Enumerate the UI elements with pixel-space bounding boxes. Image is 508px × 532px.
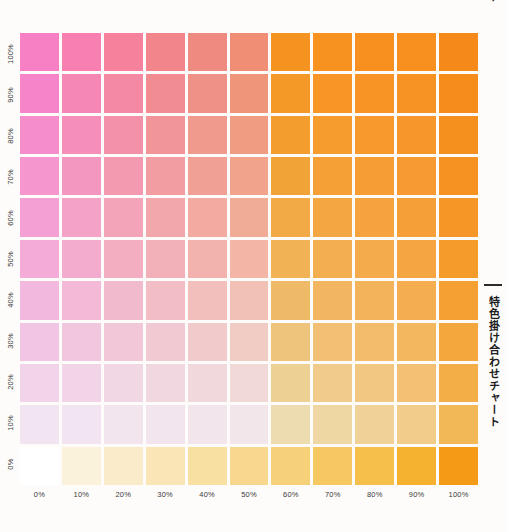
color-swatch <box>104 33 143 71</box>
title-rule-divider <box>484 284 502 286</box>
color-swatch <box>271 116 310 154</box>
x-tick-label: 70% <box>313 487 352 503</box>
color-swatch <box>439 447 478 485</box>
color-swatch <box>188 240 227 278</box>
color-swatch <box>62 281 101 319</box>
color-swatch <box>313 281 352 319</box>
color-swatch <box>439 240 478 278</box>
color-swatch <box>20 74 59 112</box>
color-swatch <box>230 447 269 485</box>
y-tick-label: 90% <box>6 87 15 103</box>
color-swatch <box>230 74 269 112</box>
color-swatch <box>146 405 185 443</box>
color-swatch <box>355 405 394 443</box>
color-swatch <box>146 33 185 71</box>
color-swatch <box>397 405 436 443</box>
color-swatch <box>20 447 59 485</box>
color-swatch <box>104 364 143 402</box>
color-swatch <box>355 198 394 236</box>
color-swatch <box>355 240 394 278</box>
color-swatch <box>104 447 143 485</box>
color-swatch <box>355 281 394 319</box>
color-swatch <box>188 447 227 485</box>
color-swatch <box>439 405 478 443</box>
color-swatch <box>271 74 310 112</box>
color-swatch <box>271 447 310 485</box>
x-tick-label: 40% <box>188 487 227 503</box>
x-tick-label: 0% <box>20 487 59 503</box>
color-swatch <box>230 240 269 278</box>
y-tick-label: 40% <box>6 292 15 308</box>
color-swatch <box>146 157 185 195</box>
color-swatch <box>271 33 310 71</box>
color-swatch <box>439 157 478 195</box>
color-swatch <box>439 281 478 319</box>
y-tick-label: 10% <box>6 416 15 432</box>
color-swatch <box>313 405 352 443</box>
color-swatch <box>230 198 269 236</box>
y-tick: 80% <box>0 115 20 156</box>
y-tick-label: 70% <box>6 169 15 185</box>
x-tick-label: 20% <box>104 487 143 503</box>
color-swatch <box>230 281 269 319</box>
color-swatch <box>397 281 436 319</box>
color-swatch <box>271 198 310 236</box>
color-swatch <box>439 198 478 236</box>
color-swatch <box>62 74 101 112</box>
color-swatch <box>439 74 478 112</box>
color-swatch <box>20 405 59 443</box>
color-swatch <box>397 240 436 278</box>
color-swatch <box>397 323 436 361</box>
color-swatch <box>104 198 143 236</box>
color-swatch <box>271 281 310 319</box>
color-swatch <box>146 364 185 402</box>
color-swatch <box>62 323 101 361</box>
color-swatch <box>62 405 101 443</box>
y-tick: 40% <box>0 280 20 321</box>
color-swatch <box>104 157 143 195</box>
color-swatch <box>230 116 269 154</box>
color-swatch <box>271 323 310 361</box>
color-swatch <box>439 323 478 361</box>
color-swatch <box>146 74 185 112</box>
color-swatch <box>62 33 101 71</box>
y-tick: 90% <box>0 74 20 115</box>
color-swatch <box>313 323 352 361</box>
y-tick-label: 60% <box>6 210 15 226</box>
y-tick: 100% <box>0 33 20 74</box>
color-swatch-grid <box>20 33 478 485</box>
color-swatch <box>188 116 227 154</box>
color-swatch <box>104 281 143 319</box>
color-swatch <box>355 33 394 71</box>
color-swatch <box>20 33 59 71</box>
color-swatch <box>313 74 352 112</box>
color-swatch <box>20 157 59 195</box>
color-swatch <box>104 323 143 361</box>
color-swatch <box>355 74 394 112</box>
y-tick-label: 0% <box>6 459 15 470</box>
right-margin: ト 特色掛け合わせチャート <box>478 0 508 532</box>
color-swatch <box>230 323 269 361</box>
y-tick-label: 100% <box>6 44 15 64</box>
color-swatch <box>104 116 143 154</box>
color-swatch <box>397 74 436 112</box>
y-tick-label: 50% <box>6 251 15 267</box>
color-swatch <box>62 240 101 278</box>
y-tick-label: 80% <box>6 128 15 144</box>
color-swatch <box>188 281 227 319</box>
color-swatch <box>271 364 310 402</box>
color-swatch <box>20 240 59 278</box>
color-swatch <box>313 33 352 71</box>
x-tick-label: 30% <box>146 487 185 503</box>
y-tick: 70% <box>0 156 20 197</box>
color-swatch <box>313 447 352 485</box>
color-swatch <box>355 323 394 361</box>
color-swatch <box>146 116 185 154</box>
color-swatch <box>188 157 227 195</box>
color-swatch <box>271 240 310 278</box>
color-swatch <box>188 405 227 443</box>
color-swatch <box>271 157 310 195</box>
color-swatch <box>439 33 478 71</box>
color-swatch <box>439 116 478 154</box>
y-tick: 60% <box>0 197 20 238</box>
